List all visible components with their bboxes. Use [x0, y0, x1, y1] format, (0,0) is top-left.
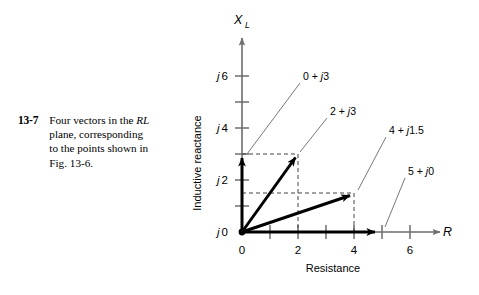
y-axis-title: Inductive reactance: [191, 115, 203, 210]
y-tick-label-j0-prefix: j: [215, 226, 220, 238]
y-tick-label-j4-prefix: j: [215, 122, 220, 134]
annotation-5-plus-j0-imag: 0: [428, 165, 434, 177]
y-tick-label-j4: j4: [215, 122, 229, 134]
plot-svg: R X L Resistance Inductive reactance 0 2…: [0, 0, 479, 295]
leader-5-plus-j0: [385, 178, 405, 227]
annotation-0-plus-j3: 0 + j3: [303, 70, 329, 82]
annotation-2-plus-j3-imag: 3: [350, 105, 356, 117]
y-tick-label-j6: j6: [215, 70, 228, 82]
vector-plot: R X L Resistance Inductive reactance 0 2…: [0, 0, 479, 295]
leader-4-plus-j1p5: [358, 137, 386, 190]
y-axis-symbol-sub: L: [245, 20, 250, 30]
x-axis-symbol: R: [443, 225, 452, 239]
y-tick-labels: j0 j2 j4 j6: [215, 70, 229, 238]
annotation-2-plus-j3: 2 + j3: [330, 105, 356, 117]
guide-lines: [242, 154, 354, 232]
x-tick-labels: 0 2 4 6: [239, 244, 413, 256]
y-tick-label-j2: j2: [215, 174, 228, 186]
y-tick-label-j0: j0: [215, 226, 228, 238]
annotation-0-plus-j3-imag: 3: [323, 70, 329, 82]
y-tick-label-j2-prefix: j: [215, 174, 220, 186]
annotation-4-plus-j1p5: 4 + j1.5: [389, 124, 424, 136]
label-leader-lines: [247, 83, 405, 227]
x-tick-label-6: 6: [407, 244, 413, 256]
y-tick-label-j6-value: 6: [222, 70, 228, 82]
annotation-4-plus-j1p5-real: 4 +: [389, 124, 407, 136]
x-axis-title: Resistance: [306, 262, 360, 274]
y-axis-symbol-base: X: [233, 13, 243, 27]
figure-13-7: 13-7 Four vectors in the RL plane, corre…: [0, 0, 479, 295]
y-tick-label-j2-value: 2: [222, 174, 228, 186]
annotation-2-plus-j3-real: 2 +: [330, 105, 348, 117]
x-tick-label-0: 0: [239, 244, 245, 256]
annotation-5-plus-j0: 5 + j0: [408, 165, 434, 177]
x-tick-label-4: 4: [351, 244, 358, 256]
x-tick-label-2: 2: [295, 244, 301, 256]
origin-dot: [239, 229, 246, 236]
y-tick-label-j0-value: 0: [222, 226, 228, 238]
vector-4-plus-j1p5: [242, 196, 350, 233]
vector-2-plus-j3: [242, 158, 296, 233]
y-tick-label-j4-value: 4: [222, 122, 229, 134]
y-tick-label-j6-prefix: j: [215, 70, 220, 82]
vectors: [239, 158, 375, 236]
annotation-5-plus-j0-real: 5 +: [408, 165, 426, 177]
annotation-0-plus-j3-real: 0 +: [303, 70, 321, 82]
leader-2-plus-j3: [300, 118, 327, 152]
leader-0-plus-j3: [247, 83, 300, 154]
annotation-4-plus-j1p5-imag: 1.5: [409, 124, 424, 136]
